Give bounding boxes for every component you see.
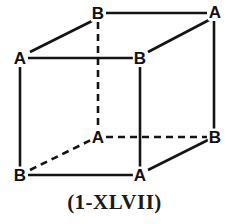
vertex-label-back-bottom-left: A	[91, 129, 105, 146]
vertex-label-back-top-right: A	[208, 4, 222, 21]
vertex-label-front-bottom-right: A	[133, 167, 147, 184]
cube-edge-top-left-diagonal	[30, 21, 92, 52]
vertex-label-front-top-right: B	[133, 50, 147, 67]
cube-edge-bottom-left-diagonal	[30, 140, 91, 170]
vertex-label-front-top-left: A	[13, 50, 27, 67]
edge-layer	[20, 13, 214, 175]
vertex-label-front-bottom-left: B	[13, 167, 27, 184]
cube-edge-top-right-diagonal	[148, 20, 209, 52]
figure-caption: (1-XLVII)	[0, 190, 229, 214]
cube-edge-bottom-right-diagonal	[148, 140, 208, 170]
vertex-label-back-bottom-right: B	[208, 129, 222, 146]
vertex-label-back-top-left: B	[91, 5, 105, 22]
cube-figure: BAABABBA (1-XLVII)	[0, 0, 229, 224]
